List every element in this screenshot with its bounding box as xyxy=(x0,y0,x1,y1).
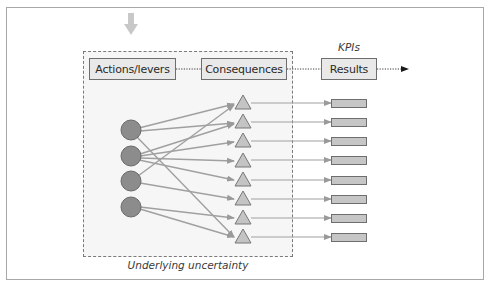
result-bar xyxy=(332,196,367,204)
consequence-node xyxy=(235,133,251,147)
consequences xyxy=(235,95,251,243)
consequence-node xyxy=(235,210,251,224)
lever-node xyxy=(121,120,141,140)
diagram-canvas xyxy=(0,0,491,285)
stage-actions-levers: Actions/levers xyxy=(89,58,176,80)
kpi-label: KPIs xyxy=(320,41,378,53)
result-bar xyxy=(332,100,367,108)
consequence-node xyxy=(235,153,251,167)
result-bar xyxy=(332,119,367,127)
result-bar xyxy=(332,157,367,165)
lever-arrows xyxy=(137,104,234,237)
stage-label: Actions/levers xyxy=(95,63,169,76)
result-bar xyxy=(332,138,367,146)
stage-label: Results xyxy=(330,63,368,76)
stage-results: Results xyxy=(321,58,377,80)
consequence-node xyxy=(235,172,251,186)
lever-node xyxy=(121,146,141,166)
result-arrows xyxy=(251,103,331,237)
result-bar xyxy=(332,234,367,242)
consequence-node xyxy=(235,229,251,243)
stage-label: Consequences xyxy=(205,63,283,76)
consequence-node xyxy=(235,191,251,205)
stage-consequences: Consequences xyxy=(201,58,287,80)
uncertainty-caption: Underlying uncertainty xyxy=(83,259,293,271)
consequence-node xyxy=(235,114,251,128)
lever-node xyxy=(121,197,141,217)
input-down-arrow-icon xyxy=(124,13,138,35)
result-bar xyxy=(332,215,367,223)
consequence-node xyxy=(235,95,251,109)
lever-node xyxy=(121,171,141,191)
levers xyxy=(121,120,141,217)
results xyxy=(332,100,367,242)
result-bar xyxy=(332,177,367,185)
